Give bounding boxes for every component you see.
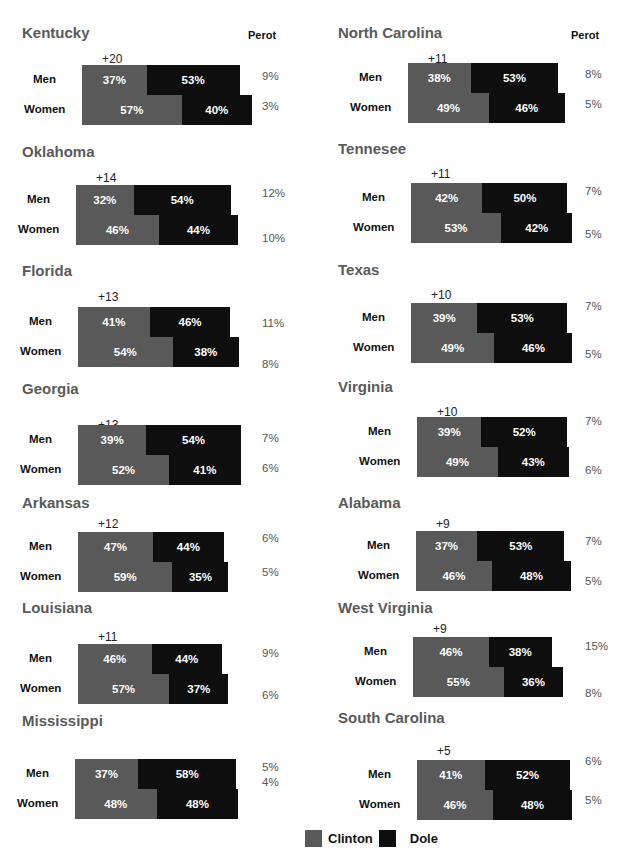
men-label: Men	[29, 652, 52, 664]
legend: Clinton Dole	[305, 830, 438, 847]
men-bar: 41%46%	[78, 307, 230, 337]
dole-segment: 54%	[134, 185, 231, 215]
gender-gap: +9	[433, 622, 447, 636]
clinton-segment: 42%	[411, 183, 482, 213]
dole-segment: 44%	[152, 644, 222, 674]
men-bar: 39%53%	[411, 303, 567, 333]
women-bar: 57%37%	[78, 674, 228, 704]
men-label: Men	[367, 539, 390, 551]
men-bar: 38%53%	[408, 63, 558, 93]
dole-segment: 52%	[481, 417, 567, 447]
state-panel-oklahoma: Oklahoma+14Men32%54%12%Women46%44%10%	[22, 143, 322, 253]
women-perot-value: 5%	[262, 566, 279, 578]
clinton-segment: 38%	[408, 63, 471, 93]
men-bar: 37%53%	[416, 531, 564, 561]
women-label: Women	[18, 223, 59, 235]
gender-gap: +20	[102, 52, 122, 66]
state-title: Virginia	[338, 378, 393, 395]
clinton-segment: 41%	[78, 307, 150, 337]
women-bar: 59%35%	[78, 562, 228, 592]
state-title: Georgia	[22, 380, 79, 397]
gender-gap: +11	[431, 167, 450, 181]
clinton-segment: 48%	[75, 789, 157, 819]
men-perot-value: 7%	[585, 185, 602, 197]
dole-segment: 41%	[169, 455, 241, 485]
gender-gap: +9	[436, 517, 450, 531]
women-label: Women	[20, 345, 61, 357]
men-label: Men	[364, 645, 387, 657]
men-label: Men	[29, 315, 52, 327]
men-perot-value: 15%	[585, 640, 608, 652]
gender-gap: +11	[98, 630, 117, 644]
dole-swatch	[379, 830, 396, 847]
women-label: Women	[353, 341, 394, 353]
perot-header: Perot	[248, 29, 276, 41]
women-bar: 57%40%	[82, 95, 252, 125]
women-perot-value: 5%	[585, 228, 602, 240]
state-title: Louisiana	[22, 599, 92, 616]
men-label: Men	[362, 311, 385, 323]
state-panel-tennesee: Tennesee+11Men42%50%7%Women53%42%5%	[338, 140, 622, 250]
women-perot-value: 5%	[585, 98, 602, 110]
clinton-segment: 49%	[408, 93, 489, 123]
clinton-segment: 55%	[413, 667, 504, 697]
men-bar: 47%44%	[78, 532, 224, 562]
men-perot-value: 6%	[585, 755, 602, 767]
women-bar: 54%38%	[78, 337, 239, 367]
state-title: West Virginia	[338, 599, 432, 616]
men-perot-value: 7%	[585, 415, 602, 427]
women-bar: 46%48%	[417, 790, 572, 820]
women-bar: 53%42%	[411, 213, 572, 243]
clinton-segment: 41%	[417, 760, 485, 790]
men-label: Men	[29, 540, 52, 552]
dole-segment: 46%	[150, 307, 231, 337]
dole-segment: 50%	[482, 183, 567, 213]
men-bar: 32%54%	[76, 185, 231, 215]
state-title: Alabama	[338, 494, 401, 511]
women-label: Women	[24, 103, 65, 115]
state-panel-texas: Texas+10Men39%53%7%Women49%46%5%	[338, 261, 622, 371]
women-label: Women	[20, 463, 61, 475]
clinton-segment: 46%	[413, 637, 489, 667]
state-panel-kentucky: KentuckyPerot+20Men37%53%9%Women57%40%3%	[22, 24, 322, 134]
gender-gap: +13	[98, 290, 118, 304]
men-perot-value: 6%	[262, 532, 279, 544]
women-perot-value: 6%	[585, 464, 602, 476]
women-bar: 49%43%	[417, 447, 569, 477]
men-perot-value: 9%	[262, 70, 279, 82]
dole-segment: 48%	[493, 790, 572, 820]
women-bar: 49%46%	[408, 93, 565, 123]
clinton-segment: 39%	[78, 425, 146, 455]
state-panel-south-carolina: South Carolina+5Men41%52%6%Women46%48%5%	[338, 709, 622, 819]
clinton-segment: 46%	[76, 215, 159, 245]
legend-dole-label: Dole	[410, 831, 438, 846]
state-title: Oklahoma	[22, 143, 95, 160]
women-bar: 46%44%	[76, 215, 238, 245]
men-label: Men	[368, 425, 391, 437]
women-bar: 48%48%	[75, 789, 238, 819]
men-bar: 39%54%	[78, 425, 241, 455]
women-perot-value: 5%	[585, 575, 602, 587]
men-label: Men	[362, 191, 385, 203]
women-perot-value: 8%	[585, 687, 602, 699]
women-perot-value: 6%	[262, 462, 279, 474]
state-title: Arkansas	[22, 494, 90, 511]
women-label: Women	[353, 221, 394, 233]
men-perot-value: 7%	[585, 300, 602, 312]
state-panel-florida: Florida+13Men41%46%11%Women54%38%8%	[22, 262, 322, 372]
dole-segment: 53%	[471, 63, 558, 93]
dole-segment: 48%	[492, 561, 571, 591]
clinton-segment: 46%	[416, 561, 492, 591]
dole-segment: 38%	[173, 337, 240, 367]
legend-clinton-label: Clinton	[328, 831, 373, 846]
dole-segment: 40%	[182, 95, 252, 125]
clinton-segment: 37%	[82, 65, 147, 95]
women-label: Women	[17, 797, 58, 809]
clinton-segment: 52%	[78, 455, 169, 485]
dole-segment: 53%	[477, 531, 564, 561]
dole-segment: 42%	[501, 213, 572, 243]
women-bar: 55%36%	[413, 667, 563, 697]
perot-header: Perot	[571, 29, 599, 41]
men-label: Men	[33, 73, 56, 85]
state-panel-alabama: Alabama+9Men37%53%7%Women46%48%5%	[338, 494, 622, 604]
